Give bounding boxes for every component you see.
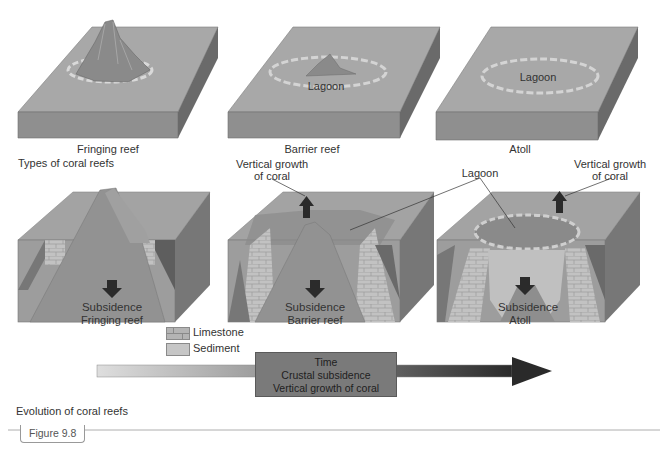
caption-evolution: Evolution of coral reefs (16, 405, 128, 417)
top-block-atoll (436, 27, 638, 140)
label-atoll-top: Atoll (470, 143, 570, 155)
label-barrier-reef-bottom: Barrier reef (265, 314, 365, 326)
timeline-box: Time Crustal subsidence Vertical growth … (255, 352, 397, 397)
figure-number-tab: Figure 9.8 (20, 425, 85, 443)
label-subsidence-fringing: Subsidence (62, 301, 162, 313)
label-subsidence-atoll: Subsidence (478, 301, 578, 313)
label-fringing-reef-bottom: Fringing reef (62, 314, 162, 326)
annotation-vertical-growth-left-2: of coral (222, 170, 322, 182)
annotation-vertical-growth-right-2: of coral (560, 170, 660, 182)
label-barrier-reef-top: Barrier reef (262, 143, 362, 155)
label-lagoon-barrier: Lagoon (296, 80, 356, 92)
top-block-fringing (18, 20, 218, 138)
label-subsidence-barrier: Subsidence (265, 301, 365, 313)
legend-swatch-sediment (166, 343, 190, 356)
timeline-line-time: Time (256, 356, 396, 369)
annotation-vertical-growth-left-1: Vertical growth (222, 158, 322, 170)
legend-label-limestone: Limestone (193, 326, 244, 338)
legend-label-sediment: Sediment (193, 342, 239, 354)
label-atoll-bottom: Atoll (470, 314, 570, 326)
timeline-line-growth: Vertical growth of coral (256, 382, 396, 395)
timeline-line-subsidence: Crustal subsidence (256, 369, 396, 382)
annotation-lagoon: Lagoon (450, 167, 510, 179)
label-fringing-reef-top: Fringing reef (58, 143, 158, 155)
label-lagoon-atoll: Lagoon (508, 71, 568, 83)
annotation-vertical-growth-right-1: Vertical growth (560, 158, 660, 170)
caption-types: Types of coral reefs (18, 157, 114, 169)
legend-swatch-limestone (166, 327, 190, 340)
